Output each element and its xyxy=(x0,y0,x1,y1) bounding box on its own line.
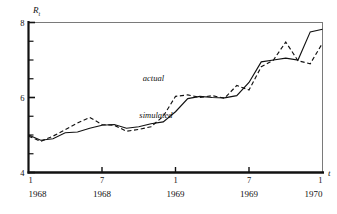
x-axis-year-label: 1968 xyxy=(93,189,112,199)
x-axis-tick-labels: 17171 xyxy=(29,175,323,185)
annotation-actual: actual xyxy=(143,73,165,83)
x-axis-month-label: 7 xyxy=(100,175,104,185)
x-axis-month-label: 1 xyxy=(318,175,322,185)
y-axis-tick-label: 8 xyxy=(20,18,24,28)
x-axis-year-label: 1970 xyxy=(305,189,324,199)
y-axis-tick-labels: 468 xyxy=(20,18,25,178)
x-axis-month-label: 1 xyxy=(29,175,33,185)
y-axis-tick-label: 4 xyxy=(20,168,25,178)
x-axis-year-label: 1968 xyxy=(29,189,48,199)
annotation-simulated: simulated xyxy=(139,110,173,120)
y-axis-title: Rt xyxy=(32,5,41,17)
x-axis-year-label: 1969 xyxy=(167,189,186,199)
plot-background xyxy=(28,22,323,173)
x-axis-month-label: 7 xyxy=(247,175,251,185)
x-axis-month-label: 1 xyxy=(173,175,177,185)
time-series-chart: 468 17171 19681968196919691970 actualsim… xyxy=(0,0,337,214)
x-axis-year-labels: 19681968196919691970 xyxy=(29,189,324,199)
x-axis-year-label: 1969 xyxy=(240,189,259,199)
x-axis-title: t xyxy=(328,168,331,178)
chart-figure: 468 17171 19681968196919691970 actualsim… xyxy=(0,0,337,214)
y-axis-title-subscript: t xyxy=(39,11,41,17)
y-axis-tick-label: 6 xyxy=(20,93,24,103)
